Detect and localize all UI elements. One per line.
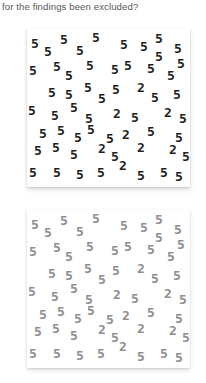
- distractor-digit[interactable]: 5: [44, 226, 52, 239]
- distractor-digit[interactable]: 5: [48, 86, 56, 99]
- distractor-digit[interactable]: 5: [57, 124, 65, 137]
- distractor-digit[interactable]: 5: [84, 81, 92, 94]
- distractor-digit[interactable]: 5: [111, 244, 119, 257]
- distractor-digit[interactable]: 5: [39, 127, 47, 140]
- target-digit[interactable]: 2: [137, 322, 145, 335]
- distractor-digit[interactable]: 5: [147, 243, 155, 256]
- distractor-digit[interactable]: 5: [111, 63, 119, 76]
- distractor-digit[interactable]: 5: [167, 69, 175, 82]
- distractor-digit[interactable]: 5: [29, 166, 37, 179]
- target-digit[interactable]: 2: [164, 106, 172, 119]
- distractor-digit[interactable]: 5: [74, 131, 82, 144]
- target-digit[interactable]: 2: [137, 262, 145, 275]
- distractor-digit[interactable]: 5: [70, 148, 78, 161]
- distractor-digit[interactable]: 5: [51, 290, 59, 303]
- distractor-digit[interactable]: 5: [147, 306, 155, 319]
- target-digit[interactable]: 2: [122, 128, 130, 141]
- distractor-digit[interactable]: 5: [112, 264, 120, 277]
- distractor-digit[interactable]: 5: [140, 221, 148, 234]
- distractor-digit[interactable]: 5: [53, 241, 61, 254]
- distractor-digit[interactable]: 5: [28, 285, 36, 298]
- distractor-digit[interactable]: 5: [34, 144, 42, 157]
- distractor-digit[interactable]: 5: [34, 325, 42, 338]
- distractor-digit[interactable]: 5: [151, 272, 159, 285]
- target-digit[interactable]: 2: [137, 81, 145, 94]
- distractor-digit[interactable]: 5: [39, 308, 47, 321]
- distractor-digit[interactable]: 5: [52, 141, 60, 154]
- distractor-digit[interactable]: 5: [76, 225, 84, 238]
- target-digit[interactable]: 2: [137, 141, 145, 154]
- distractor-digit[interactable]: 5: [84, 262, 92, 275]
- distractor-digit[interactable]: 5: [53, 166, 61, 179]
- distractor-digit[interactable]: 5: [70, 101, 78, 114]
- distractor-digit[interactable]: 5: [28, 104, 36, 117]
- distractor-digit[interactable]: 5: [86, 240, 94, 253]
- distractor-digit[interactable]: 5: [124, 240, 132, 253]
- distractor-digit[interactable]: 5: [173, 88, 181, 101]
- distractor-digit[interactable]: 5: [124, 59, 132, 72]
- distractor-digit[interactable]: 5: [70, 329, 78, 342]
- distractor-digit[interactable]: 5: [182, 150, 190, 163]
- distractor-digit[interactable]: 5: [179, 293, 187, 306]
- distractor-digit[interactable]: 5: [76, 44, 84, 57]
- distractor-digit[interactable]: 5: [106, 132, 114, 145]
- distractor-digit[interactable]: 5: [92, 31, 100, 44]
- target-digit[interactable]: 2: [169, 143, 177, 156]
- distractor-digit[interactable]: 5: [147, 125, 155, 138]
- distractor-digit[interactable]: 5: [29, 347, 37, 360]
- distractor-digit[interactable]: 5: [97, 166, 105, 179]
- distractor-digit[interactable]: 5: [160, 347, 168, 360]
- distractor-digit[interactable]: 5: [98, 92, 106, 105]
- distractor-digit[interactable]: 5: [106, 313, 114, 326]
- distractor-digit[interactable]: 5: [92, 212, 100, 225]
- distractor-digit[interactable]: 5: [76, 349, 84, 362]
- distractor-digit[interactable]: 5: [29, 245, 37, 258]
- distractor-digit[interactable]: 5: [140, 40, 148, 53]
- low-contrast-search-panel[interactable]: 5555555555555555555555552555555252555555…: [27, 209, 190, 368]
- target-digit[interactable]: 2: [119, 340, 127, 353]
- target-digit[interactable]: 2: [119, 159, 127, 172]
- distractor-digit[interactable]: 5: [51, 109, 59, 122]
- distractor-digit[interactable]: 5: [120, 219, 128, 232]
- distractor-digit[interactable]: 5: [174, 42, 182, 55]
- distractor-digit[interactable]: 5: [155, 50, 163, 63]
- target-digit[interactable]: 2: [122, 309, 130, 322]
- distractor-digit[interactable]: 5: [173, 269, 181, 282]
- target-digit[interactable]: 2: [164, 287, 172, 300]
- distractor-digit[interactable]: 5: [155, 213, 163, 226]
- distractor-digit[interactable]: 5: [182, 331, 190, 344]
- target-digit[interactable]: 2: [98, 323, 106, 336]
- distractor-digit[interactable]: 5: [97, 347, 105, 360]
- distractor-digit[interactable]: 5: [120, 38, 128, 51]
- distractor-digit[interactable]: 5: [175, 351, 183, 364]
- distractor-digit[interactable]: 5: [147, 62, 155, 75]
- distractor-digit[interactable]: 5: [111, 331, 119, 344]
- distractor-digit[interactable]: 5: [137, 350, 145, 363]
- distractor-digit[interactable]: 5: [86, 59, 94, 72]
- distractor-digit[interactable]: 5: [65, 250, 73, 263]
- distractor-digit[interactable]: 5: [137, 169, 145, 182]
- distractor-digit[interactable]: 5: [52, 322, 60, 335]
- distractor-digit[interactable]: 5: [131, 292, 139, 305]
- distractor-digit[interactable]: 5: [131, 111, 139, 124]
- distractor-digit[interactable]: 5: [31, 218, 39, 231]
- target-digit[interactable]: 2: [113, 288, 121, 301]
- distractor-digit[interactable]: 5: [167, 250, 175, 263]
- distractor-digit[interactable]: 5: [112, 83, 120, 96]
- distractor-digit[interactable]: 5: [177, 238, 185, 251]
- distractor-digit[interactable]: 5: [111, 150, 119, 163]
- distractor-digit[interactable]: 5: [31, 37, 39, 50]
- distractor-digit[interactable]: 5: [57, 305, 65, 318]
- distractor-digit[interactable]: 5: [44, 45, 52, 58]
- distractor-digit[interactable]: 5: [70, 282, 78, 295]
- target-digit[interactable]: 2: [169, 324, 177, 337]
- distractor-digit[interactable]: 5: [76, 168, 84, 181]
- distractor-digit[interactable]: 5: [175, 170, 183, 183]
- distractor-digit[interactable]: 5: [87, 123, 95, 136]
- distractor-digit[interactable]: 5: [155, 32, 163, 45]
- distractor-digit[interactable]: 5: [48, 267, 56, 280]
- distractor-digit[interactable]: 5: [29, 64, 37, 77]
- distractor-digit[interactable]: 5: [60, 33, 68, 46]
- target-digit[interactable]: 2: [113, 107, 121, 120]
- distractor-digit[interactable]: 5: [177, 57, 185, 70]
